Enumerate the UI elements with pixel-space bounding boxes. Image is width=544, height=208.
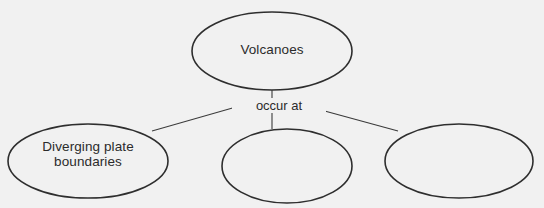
node-ellipse-blank-middle[interactable] <box>222 129 352 203</box>
concept-map-diagram: Volcanoes occur at Diverging plate bound… <box>0 0 544 208</box>
connector-label-to-left <box>152 107 236 131</box>
node-ellipse-blank-right[interactable] <box>385 124 533 198</box>
node-ellipse-volcanoes[interactable] <box>192 12 352 90</box>
node-ellipse-diverging-plate-boundaries[interactable] <box>8 124 168 198</box>
connector-label-occur-at: occur at <box>232 98 326 113</box>
